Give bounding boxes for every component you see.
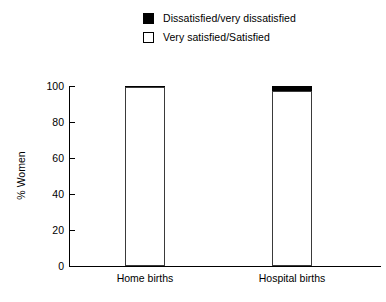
x-category-label-hospital-births: Hospital births bbox=[232, 272, 352, 284]
y-tick-label-80: 80 bbox=[36, 117, 64, 128]
y-tick-label-60: 60 bbox=[36, 153, 64, 164]
y-tick-80 bbox=[69, 122, 75, 123]
y-tick-label-60-wrap: 60 bbox=[36, 153, 64, 164]
bar-home-births bbox=[125, 86, 165, 267]
y-tick-label-100-wrap: 100 bbox=[36, 81, 64, 92]
y-tick-label-20: 20 bbox=[36, 225, 64, 236]
y-tick-20 bbox=[69, 230, 75, 231]
y-tick-label-0: 0 bbox=[36, 261, 64, 272]
y-tick-label-80-wrap: 80 bbox=[36, 117, 64, 128]
y-tick-label-100: 100 bbox=[36, 81, 64, 92]
bar-hospital-births-satisfied-segment bbox=[272, 91, 312, 266]
y-tick-label-0-wrap: 0 bbox=[36, 261, 64, 272]
y-tick-60 bbox=[69, 158, 75, 159]
y-axis-title: % Women bbox=[16, 141, 27, 211]
y-tick-40 bbox=[69, 194, 75, 195]
y-tick-label-40: 40 bbox=[36, 189, 64, 200]
y-tick-100 bbox=[69, 86, 75, 87]
y-axis-line bbox=[69, 86, 70, 267]
bar-home-births-satisfied-segment bbox=[125, 87, 165, 266]
plot-area: % Women 0 20 40 60 80 100 bbox=[0, 0, 386, 302]
chart-figure: Dissatisfied/very dissatisfied Very sati… bbox=[0, 0, 386, 302]
y-tick-0 bbox=[69, 266, 75, 267]
y-tick-label-20-wrap: 20 bbox=[36, 225, 64, 236]
bar-hospital-births bbox=[272, 86, 312, 267]
x-category-label-home-births: Home births bbox=[85, 272, 205, 284]
x-axis-line bbox=[69, 266, 381, 267]
y-tick-label-40-wrap: 40 bbox=[36, 189, 64, 200]
